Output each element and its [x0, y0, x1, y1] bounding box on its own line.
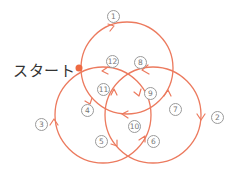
step-number-12: 12: [106, 55, 119, 68]
left-circle: [55, 67, 151, 163]
step-number-2: 2: [211, 111, 224, 124]
step-number-6: 6: [147, 135, 160, 148]
step-number-5: 5: [95, 135, 108, 148]
step-number-8: 8: [134, 56, 147, 69]
right-circle: [105, 67, 201, 163]
start-label: スタート: [13, 59, 75, 80]
step-number-7: 7: [169, 103, 182, 116]
step-number-3: 3: [35, 118, 48, 131]
step-number-11: 11: [97, 83, 110, 96]
step-number-10: 10: [128, 120, 141, 133]
arrow-12-icon: [102, 67, 108, 74]
step-number-4: 4: [81, 104, 94, 117]
start-dot: [76, 65, 83, 72]
step-number-9: 9: [144, 87, 157, 100]
route-diagram: [0, 0, 236, 177]
arrow-3-icon: [50, 119, 58, 125]
step-number-1: 1: [107, 10, 120, 23]
arrow-9-icon: [134, 89, 141, 96]
